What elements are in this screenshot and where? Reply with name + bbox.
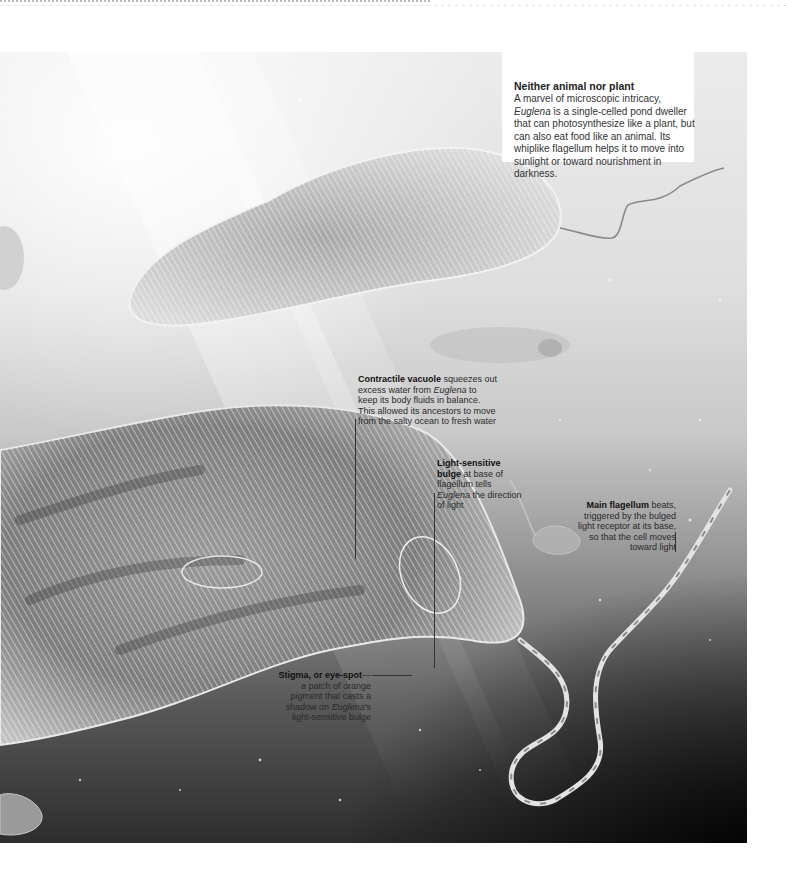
- callout-italic: Euglena: [437, 490, 470, 500]
- leader-line-contractile-vacuole: [355, 419, 356, 559]
- callout-italic: Euglena: [434, 385, 467, 395]
- intro-body-text: A marvel of microscopic intricacy,: [514, 93, 661, 104]
- callout-italic: Euglena: [332, 702, 365, 712]
- callout-light-sensitive-bulge: Light-sensitive bulge at base of flagell…: [437, 458, 525, 511]
- callout-stigma: Stigma, or eye-spot—a patch of orange pi…: [275, 670, 371, 723]
- intro-text-box: Neither animal nor plant A marvel of mic…: [502, 52, 694, 162]
- main-euglena: [0, 405, 730, 804]
- callout-title: Stigma, or eye-spot: [278, 670, 362, 680]
- callout-main-flagellum: Main flagellum beats, triggered by the b…: [572, 500, 676, 553]
- faint-organism-left: [0, 226, 24, 290]
- intro-body: A marvel of microscopic intricacy, Eugle…: [514, 93, 700, 181]
- top-dotted-rule: [0, 0, 430, 2]
- callout-title: Contractile vacuole: [358, 374, 441, 384]
- leader-line-stigma: [372, 675, 412, 676]
- callout-title: Main flagellum: [586, 500, 649, 510]
- intro-body-italic: Euglena: [514, 106, 551, 117]
- top-faint-rule: [0, 5, 786, 6]
- callout-contractile-vacuole: Contractile vacuole squeezes out excess …: [358, 374, 498, 427]
- intro-title: Neither animal nor plant: [514, 80, 694, 93]
- leader-line-light-bulge: [434, 493, 435, 668]
